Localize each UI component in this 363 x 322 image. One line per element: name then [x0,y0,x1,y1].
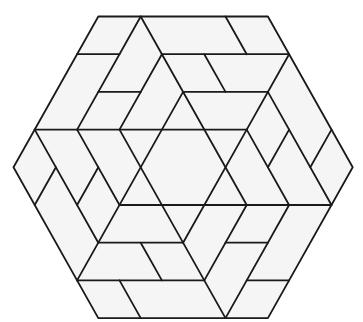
hexagon-fill [14,17,353,319]
hexagon-tiling-diagram [0,0,363,322]
